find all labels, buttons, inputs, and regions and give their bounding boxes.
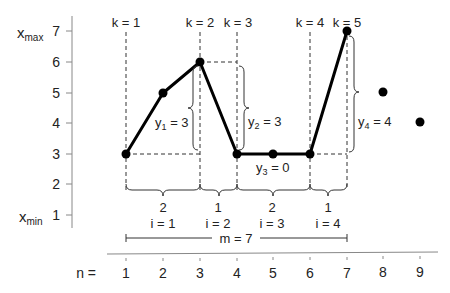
- xmax-label: xmax: [17, 24, 43, 43]
- y4-label: y4 = 4: [358, 114, 392, 131]
- x-tick-label: 3: [196, 265, 204, 281]
- data-points: [122, 27, 425, 159]
- m-label: m = 7: [220, 231, 253, 246]
- y-tick-label: 2: [52, 176, 60, 192]
- y-value-labels: y1 = 3 y2 = 3 y3 = 0 y4 = 4: [155, 114, 392, 177]
- x-tick-label: 8: [379, 264, 387, 280]
- diagram-canvas: 7 6 5 4 3 2 1 xmax xmin k = 1 k = 2 k = …: [0, 0, 450, 293]
- y-tick-label: 3: [52, 146, 60, 162]
- y-axis-ticks: [66, 31, 72, 215]
- y-tick-label: 1: [52, 207, 60, 223]
- x-tick-label: 7: [343, 265, 351, 281]
- y-tick-label: 6: [52, 54, 60, 70]
- k-guide-lines: [126, 32, 347, 190]
- interval-length: 2: [159, 200, 166, 215]
- x-tick-label: 2: [159, 265, 167, 281]
- x-tick-label: 9: [416, 264, 424, 280]
- interval-labels: 2 i = 1 1 i = 2 2 i = 3 1 i = 4: [151, 200, 341, 231]
- x-tick-label: 6: [306, 265, 314, 281]
- x-tick-label: 4: [233, 265, 241, 281]
- x-axis-labels: 1 2 3 4 5 6 7 8 9: [122, 264, 424, 281]
- interval-index: i = 1: [151, 216, 176, 231]
- x-axis-prefix: n =: [76, 265, 96, 281]
- x-tick-label: 5: [269, 265, 277, 281]
- k-label: k = 1: [112, 15, 141, 30]
- y2-label: y2 = 3: [248, 114, 282, 131]
- interval-length: 1: [214, 200, 221, 215]
- y-tick-label: 7: [52, 23, 60, 39]
- k-label: k = 4: [296, 15, 325, 30]
- interval-index: i = 2: [206, 216, 231, 231]
- interval-length: 2: [268, 200, 275, 215]
- x-axis-line: [107, 252, 438, 254]
- y1-label: y1 = 3: [155, 115, 189, 132]
- xmin-label: xmin: [19, 208, 43, 227]
- k-label: k = 3: [224, 15, 253, 30]
- interval-index: i = 3: [260, 216, 285, 231]
- x-tick-label: 1: [122, 265, 130, 281]
- y-tick-label: 5: [52, 85, 60, 101]
- y-axis-labels: 7 6 5 4 3 2 1: [52, 23, 60, 223]
- y3-label: y3 = 0: [256, 160, 290, 177]
- k-label: k = 2: [186, 15, 215, 30]
- x-axis-ticks: [126, 256, 420, 261]
- interval-length: 1: [324, 200, 331, 215]
- y-tick-label: 4: [52, 115, 60, 131]
- interval-index: i = 4: [316, 216, 341, 231]
- k-labels: k = 1 k = 2 k = 3 k = 4 k = 5: [112, 15, 362, 30]
